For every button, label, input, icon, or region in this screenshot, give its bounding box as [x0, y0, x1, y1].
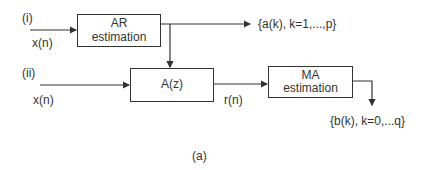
- az-filter-block: A(z): [130, 68, 214, 102]
- ma-estimation-block: MA estimation: [268, 66, 353, 98]
- ar-output-label: {a(k), k=1,...,p}: [258, 18, 336, 30]
- az-block-label: A(z): [161, 78, 183, 91]
- part-i-input-label: x(n): [32, 37, 53, 49]
- ar-block-line1: AR: [111, 17, 128, 30]
- connector-lines: [0, 0, 428, 170]
- figure-caption: (a): [192, 150, 207, 162]
- ma-block-line2: estimation: [283, 82, 338, 95]
- ma-output-label: {b(k), k=0,...q}: [330, 115, 405, 127]
- part-i-label: (i): [22, 12, 33, 24]
- part-ii-input-label: x(n): [33, 94, 54, 106]
- arrow-ma-output: [352, 81, 372, 105]
- ar-block-line2: estimation: [92, 31, 147, 44]
- part-ii-label: (ii): [22, 67, 35, 79]
- ar-estimation-block: AR estimation: [77, 14, 161, 47]
- residual-label: r(n): [224, 94, 243, 106]
